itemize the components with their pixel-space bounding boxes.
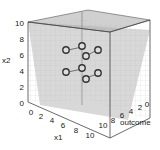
outcome-tick: 8 (111, 116, 116, 125)
outcome-tick: 0 (145, 100, 150, 109)
x1-tick: 0 (29, 108, 34, 117)
x2-tick: 10 (15, 19, 24, 28)
x2-tick: 0 (20, 99, 25, 108)
x2-tick: 4 (20, 67, 25, 76)
x1-tick: 4 (50, 116, 55, 125)
x2-axis-label: x2 (2, 56, 11, 65)
x1-tick: 2 (39, 112, 44, 121)
x2-tick: 8 (20, 35, 25, 44)
outcome-tick: 10 (99, 121, 108, 130)
x1-tick: 10 (86, 131, 95, 140)
x2-tick: 2 (20, 83, 25, 92)
x1-axis-label: x1 (54, 133, 63, 142)
x1-tick: 6 (61, 121, 66, 130)
data-point (79, 43, 85, 49)
outcome-axis-label: outcome (120, 118, 151, 127)
data-point (63, 47, 69, 53)
x2-axis: 10 8 6 4 2 0 (15, 19, 24, 108)
data-point (83, 53, 89, 59)
data-point (95, 70, 101, 76)
data-point (63, 69, 69, 75)
chart-canvas: 10 8 6 4 2 0 x2 0 2 4 6 8 10 x1 0 2 4 6 … (0, 0, 160, 150)
3d-scatter-chart: 10 8 6 4 2 0 x2 0 2 4 6 8 10 x1 0 2 4 6 … (0, 0, 160, 150)
outcome-tick: 4 (129, 107, 134, 116)
outcome-tick: 2 (138, 103, 143, 112)
data-point (83, 76, 89, 82)
x2-tick: 6 (20, 51, 25, 60)
data-point (95, 47, 101, 53)
data-point (79, 65, 85, 71)
x1-tick: 8 (74, 126, 79, 135)
